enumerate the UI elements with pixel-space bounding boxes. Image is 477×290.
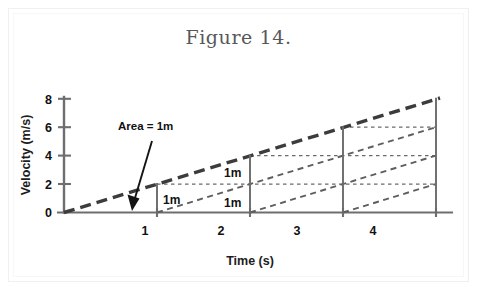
callout-arrow-head xyxy=(128,195,140,212)
y-tick-label-4: 4 xyxy=(45,149,52,163)
x-tick-label-2: 2 xyxy=(218,224,225,238)
y-tick-label-6: 6 xyxy=(45,121,52,135)
x-tick-label-3: 3 xyxy=(294,224,301,238)
x-tick-label-1: 1 xyxy=(142,224,149,238)
y-tick-labels: 8 6 4 2 0 xyxy=(45,93,52,221)
x-axis-title: Time (s) xyxy=(226,254,274,268)
area-callout-label: Area = 1m xyxy=(118,120,173,132)
step-vertical-lines xyxy=(157,99,436,213)
x-tick-labels: 1 2 3 4 xyxy=(142,224,377,238)
y-axis-title: Velocity (m/s) xyxy=(19,115,33,196)
y-tick-label-2: 2 xyxy=(45,178,52,192)
area-callout-arrow xyxy=(128,141,153,211)
callout-arrow-shaft xyxy=(135,141,152,198)
y-tick-label-0: 0 xyxy=(45,206,52,220)
x-tick-label-4: 4 xyxy=(370,224,377,238)
dotted-level-lines xyxy=(157,127,436,184)
area-label-1: 1m xyxy=(163,193,180,207)
figure-container: Figure 14. 8 6 4 2 0 xyxy=(0,0,477,290)
velocity-time-chart: 8 6 4 2 0 1 2 3 4 Velocity (m/s) Time (s… xyxy=(0,0,477,290)
y-tick-label-8: 8 xyxy=(45,93,52,107)
area-label-3: 1m xyxy=(224,196,241,210)
shifted-line-3 xyxy=(343,184,436,213)
area-label-2: 1m xyxy=(224,166,241,180)
